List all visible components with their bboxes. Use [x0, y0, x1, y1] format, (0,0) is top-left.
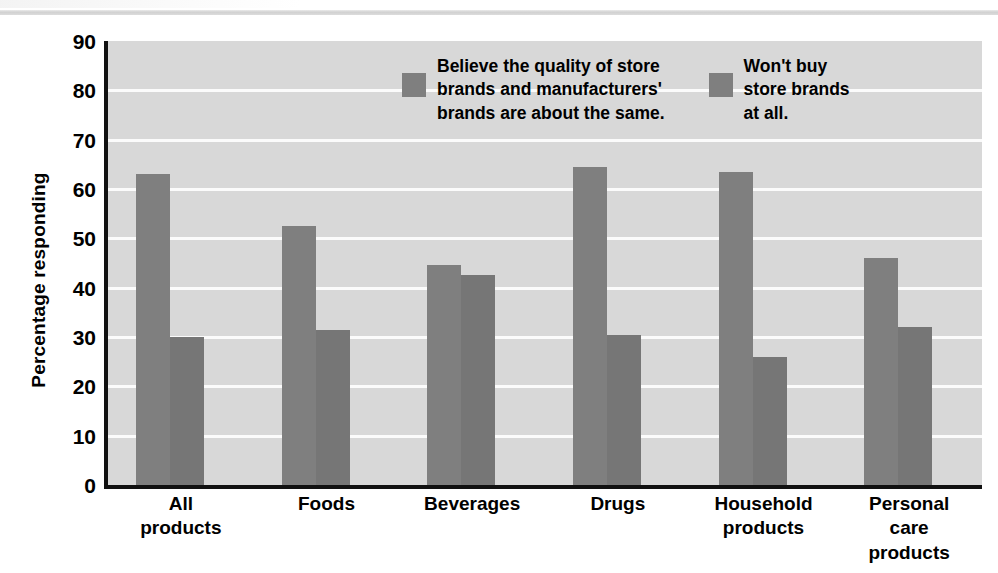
legend-label-series-1: Believe the quality of store brands and …	[437, 55, 665, 125]
y-axis-tick-60: 60	[50, 179, 96, 200]
legend-swatch-icon-series-1	[402, 73, 426, 97]
page-top-smudge	[0, 0, 300, 8]
page-top-rule	[0, 10, 998, 15]
chart-legend: Believe the quality of store brands and …	[402, 55, 850, 125]
bar-series-2[interactable]	[607, 335, 641, 485]
bar-series-2[interactable]	[461, 275, 495, 485]
x-axis-tick-label: Household products	[684, 492, 844, 541]
y-axis-tick-0: 0	[50, 475, 96, 496]
bar-group	[836, 41, 982, 485]
x-axis-tick-label: Drugs	[538, 492, 698, 516]
bar-series-1[interactable]	[427, 265, 461, 485]
y-axis-title: Percentage responding	[28, 70, 50, 490]
x-axis-tick-labels: All productsFoodsBeveragesDrugsHousehold…	[104, 492, 982, 572]
x-axis-tick-label: Personal care products	[829, 492, 989, 565]
bar-series-1[interactable]	[573, 167, 607, 485]
legend-entry-wont-buy: Won't buy store brands at all.	[709, 55, 850, 125]
bar-series-2[interactable]	[316, 330, 350, 485]
bar-series-1[interactable]	[136, 174, 170, 485]
y-axis-tick-10: 10	[50, 425, 96, 446]
x-axis-tick-label: Beverages	[392, 492, 552, 516]
y-axis-tick-90: 90	[50, 31, 96, 52]
bar-series-2[interactable]	[170, 337, 204, 485]
bar-series-2[interactable]	[753, 357, 787, 485]
legend-label-series-2: Won't buy store brands at all.	[744, 55, 850, 125]
y-axis-tick-20: 20	[50, 376, 96, 397]
bar-series-1[interactable]	[719, 172, 753, 485]
y-axis-tick-50: 50	[50, 228, 96, 249]
bar-group	[254, 41, 400, 485]
y-axis-tick-30: 30	[50, 327, 96, 348]
plot-area: Believe the quality of store brands and …	[104, 41, 982, 489]
bar-chart-figure: Percentage responding 908070605040302010…	[0, 22, 998, 573]
legend-swatch-icon-series-2	[709, 73, 733, 97]
y-axis-tick-40: 40	[50, 277, 96, 298]
bar-series-1[interactable]	[864, 258, 898, 485]
y-axis-tick-70: 70	[50, 129, 96, 150]
y-axis-tick-labels: 9080706050403020100	[50, 22, 96, 492]
x-axis-tick-label: Foods	[247, 492, 407, 516]
legend-entry-same-quality: Believe the quality of store brands and …	[402, 55, 665, 125]
bar-series-1[interactable]	[282, 226, 316, 485]
bar-series-2[interactable]	[898, 327, 932, 485]
bar-group	[108, 41, 254, 485]
y-axis-tick-80: 80	[50, 80, 96, 101]
x-axis-tick-label: All products	[101, 492, 261, 541]
